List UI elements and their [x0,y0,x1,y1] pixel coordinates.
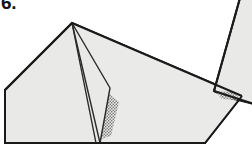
origami-diagram-svg [0,0,252,149]
origami-step-figure: 6. [0,0,252,149]
step-number-label: 6. [1,0,16,12]
standing-flap [214,0,252,104]
